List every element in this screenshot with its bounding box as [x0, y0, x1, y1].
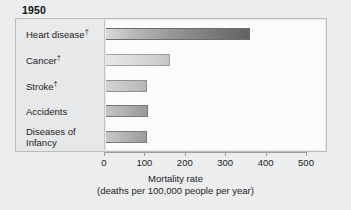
x-axis-title: Mortality rate (deaths per 100,000 peopl… [0, 173, 351, 197]
bar-diseases-of-infancy [106, 131, 147, 143]
bar-heart-disease [106, 28, 250, 40]
plot-frame: Heart disease† Cancer† Stroke† Accidents… [15, 18, 327, 152]
x-tick-label-400: 400 [258, 157, 274, 168]
mortality-bar-chart: 1950 Heart disease† Cancer† Stroke† Acci… [0, 0, 351, 210]
x-tick-label-100: 100 [136, 157, 152, 168]
x-tick-0 [104, 152, 105, 156]
category-label-column: Heart disease† Cancer† Stroke† Accidents… [17, 20, 105, 150]
category-label-cancer: Cancer† [26, 55, 61, 66]
category-label-accidents: Accidents [26, 106, 67, 117]
category-label-diseases-of-infancy: Diseases ofInfancy [26, 126, 76, 148]
x-axis-line [104, 152, 306, 153]
bar-stroke [106, 80, 147, 92]
x-axis-title-main: Mortality rate [148, 173, 203, 184]
x-tick-label-300: 300 [217, 157, 233, 168]
category-label-heart-disease: Heart disease† [26, 29, 89, 40]
bar-cancer [106, 54, 170, 66]
x-tick-300 [225, 152, 226, 156]
x-tick-200 [185, 152, 186, 156]
x-tick-label-0: 0 [101, 157, 106, 168]
x-tick-label-200: 200 [177, 157, 193, 168]
x-tick-400 [266, 152, 267, 156]
bar-accidents [106, 105, 148, 117]
x-axis-title-sub: (deaths per 100,000 people per year) [0, 185, 351, 197]
plot-area [106, 20, 325, 150]
x-tick-100 [144, 152, 145, 156]
category-label-stroke: Stroke† [26, 81, 58, 92]
x-tick-500 [306, 152, 307, 156]
chart-title: 1950 [22, 4, 46, 16]
x-tick-label-500: 500 [298, 157, 314, 168]
gridline-500 [307, 20, 308, 150]
plot-frame-inner: Heart disease† Cancer† Stroke† Accidents… [17, 20, 325, 150]
gridline-400 [267, 20, 268, 150]
